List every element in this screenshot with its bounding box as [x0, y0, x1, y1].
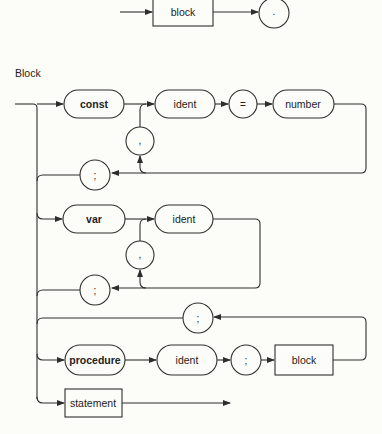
procedure-loop-semicolon-label: ; [197, 313, 200, 324]
procedure-loop-path [214, 317, 366, 360]
var-ident-label: ident [173, 213, 196, 225]
block-box-label: block [171, 6, 196, 18]
number-label: number [285, 98, 321, 110]
const-comma-label: , [139, 135, 142, 146]
const-comma-return [140, 104, 146, 127]
var-loop-path [112, 219, 260, 288]
syntax-diagram: block . Block const ident = number , ; [0, 0, 382, 434]
equals-label: = [240, 99, 246, 110]
var-semicolon-label: ; [94, 285, 97, 296]
left-spine [33, 104, 37, 399]
const-keyword-label: const [80, 98, 109, 110]
var-keyword-label: var [86, 213, 102, 225]
const-semicolon-label: ; [94, 170, 97, 181]
statement-branch [37, 397, 64, 403]
block-section-title: Block [15, 67, 41, 79]
const-comma-branch [140, 156, 146, 173]
const-ident-label: ident [174, 98, 197, 110]
procedure-ident-label: ident [176, 354, 199, 366]
var-comma-branch [140, 270, 146, 288]
var-branch [37, 213, 62, 219]
statement-label: statement [70, 397, 116, 409]
procedure-block-label: block [292, 354, 317, 366]
program-diagram: block . [120, 0, 289, 28]
procedure-branch [37, 354, 64, 360]
procedure-semicolon-label: ; [245, 355, 248, 366]
const-loop-path [112, 104, 366, 173]
const-semicolon-return [37, 175, 80, 181]
procedure-keyword-label: procedure [69, 354, 121, 366]
var-semicolon-return [37, 290, 80, 296]
var-comma-return [140, 219, 146, 241]
period-terminal-label: . [273, 6, 276, 17]
block-diagram: const ident = number , ; var ident , ; [15, 90, 366, 417]
var-comma-label: , [139, 249, 142, 260]
procedure-loop-return [37, 318, 183, 324]
